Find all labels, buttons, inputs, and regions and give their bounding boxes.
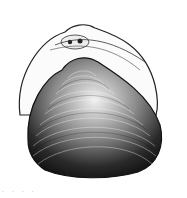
shell-illustration — [0, 0, 187, 198]
shell-drawing — [0, 0, 187, 198]
figure-caption: . . . . — [2, 186, 36, 193]
